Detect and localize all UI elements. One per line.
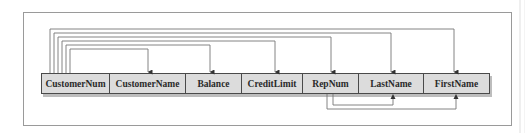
dependency-arrow (54, 33, 391, 73)
dependency-arrows (0, 0, 532, 133)
arrowhead-icon (454, 94, 459, 99)
arrowhead-icon (391, 94, 396, 99)
dependency-arrow (70, 49, 148, 73)
dependency-lines-below (327, 94, 459, 109)
dependency-arrow (327, 94, 456, 109)
dependency-arrow (333, 94, 393, 105)
dependency-arrow (62, 41, 275, 73)
dependency-lines-above (50, 29, 454, 73)
dependency-arrow (58, 37, 331, 73)
dependency-arrow (50, 29, 454, 73)
